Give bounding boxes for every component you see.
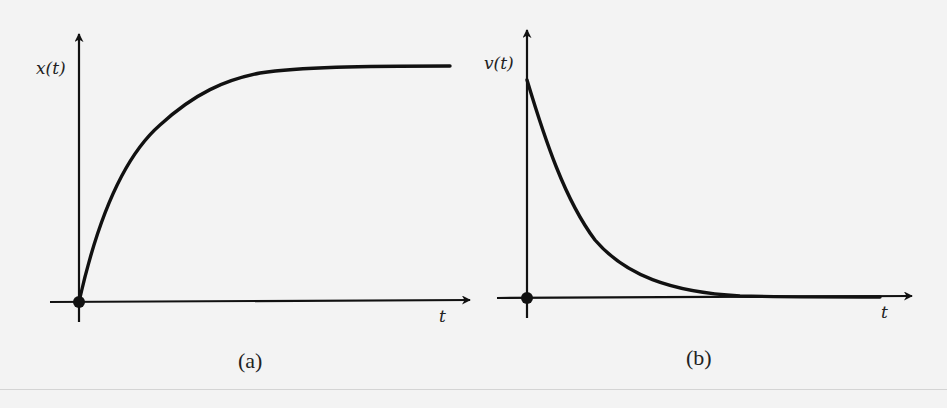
panel-a-rise-curve <box>79 66 450 302</box>
panel-b-origin-dot <box>521 292 533 304</box>
panel-a-x-axis <box>50 300 470 302</box>
panel-a <box>50 34 470 322</box>
panel-b <box>497 30 912 318</box>
panel-b-decay-curve <box>527 80 880 297</box>
page-divider-rule <box>0 389 947 390</box>
panel-a-x-label: t <box>439 308 446 325</box>
panel-b-y-label: v(t) <box>484 55 514 72</box>
figure: x(t) t (a) v(t) t (b) <box>0 0 947 408</box>
panel-b-x-label: t <box>881 304 888 321</box>
panel-a-y-label: x(t) <box>36 60 66 77</box>
panel-a-origin-dot <box>73 296 85 308</box>
panel-b-caption: (b) <box>686 347 712 369</box>
plots-svg <box>0 0 947 408</box>
panel-a-caption: (a) <box>238 350 262 372</box>
